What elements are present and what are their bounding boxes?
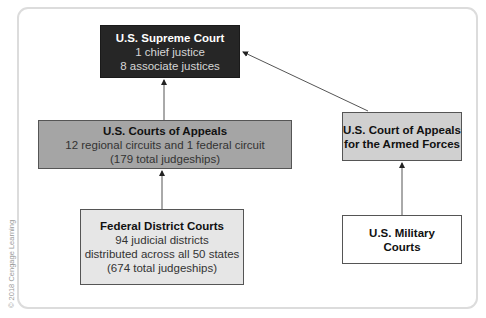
node-title: U.S. Court of Appeals [343,123,461,137]
node-detail: 8 associate justices [120,59,220,73]
node-courts-of-appeals: U.S. Courts of Appeals 12 regional circu… [38,120,292,169]
node-title: U.S. Military [369,226,435,240]
node-detail: 94 judicial districts [115,233,208,247]
node-title: Courts [383,240,420,254]
copyright-notice: © 2018 Cengage Learning [7,220,16,308]
node-title: for the Armed Forces [344,137,460,151]
node-military-courts: U.S. Military Courts [342,215,462,264]
arrow-armed-to-supreme [243,52,368,111]
node-detail: distributed across all 50 states [85,247,240,261]
node-supreme-court: U.S. Supreme Court 1 chief justice 8 ass… [100,25,240,78]
node-court-of-appeals-armed-forces: U.S. Court of Appeals for the Armed Forc… [342,112,462,161]
node-detail: (179 total judgeships) [110,152,220,166]
node-detail: 1 chief justice [135,45,205,59]
node-detail: 12 regional circuits and 1 federal circu… [65,138,264,152]
node-title: U.S. Supreme Court [116,31,225,45]
node-title: U.S. Courts of Appeals [103,124,227,138]
node-title: Federal District Courts [100,219,224,233]
node-detail: (674 total judgeships) [107,261,217,275]
node-federal-district-courts: Federal District Courts 94 judicial dist… [80,209,244,285]
